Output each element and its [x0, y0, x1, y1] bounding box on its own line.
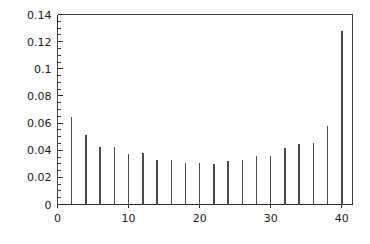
x-tick-label: 0 — [54, 212, 61, 225]
x-tick-label: 40 — [335, 212, 349, 225]
y-tick-label: 0.12 — [27, 36, 52, 49]
y-tick-label: 0 — [45, 199, 52, 212]
x-tick-label: 20 — [193, 212, 207, 225]
y-tick-label: 0.14 — [27, 9, 52, 22]
y-tick-label: 0.04 — [27, 144, 52, 157]
y-tick-label: 0.02 — [27, 171, 52, 184]
y-tick-label: 0.08 — [27, 90, 52, 103]
y-tick-label: 0.1 — [34, 63, 52, 76]
chart-figure: 00.020.040.060.080.10.120.14010203040 — [0, 0, 370, 244]
plot-frame — [58, 15, 353, 205]
x-tick-label: 10 — [122, 212, 136, 225]
stem-plot-svg: 00.020.040.060.080.10.120.14010203040 — [0, 0, 370, 244]
x-tick-label: 30 — [264, 212, 278, 225]
y-tick-label: 0.06 — [27, 117, 52, 130]
